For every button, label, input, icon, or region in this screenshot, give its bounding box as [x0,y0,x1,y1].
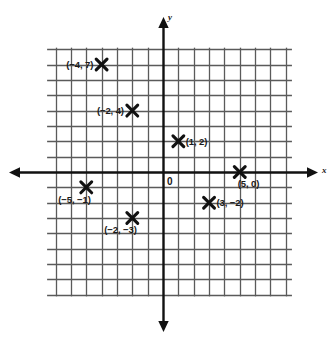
origin-label: 0 [167,176,173,187]
point-label: (−5, −1) [58,194,90,205]
y-axis-label: y [168,12,172,22]
point-label: (1, 2) [186,136,208,147]
point-marker [96,59,107,70]
point-label: (−4, 7) [66,59,93,70]
coordinate-plane-figure: 0 x y (−4, 7)(−2, 4)(1, 2)(5, 0)(−5, −1)… [0,0,335,344]
axes [9,17,318,332]
point-label: (−2, −3) [104,224,136,235]
point-label: (5, 0) [238,178,260,189]
x-axis-label: x [322,165,327,175]
graph-canvas [0,0,335,344]
point-label: (3, −2) [216,197,243,208]
point-label: (−2, 4) [97,105,124,116]
